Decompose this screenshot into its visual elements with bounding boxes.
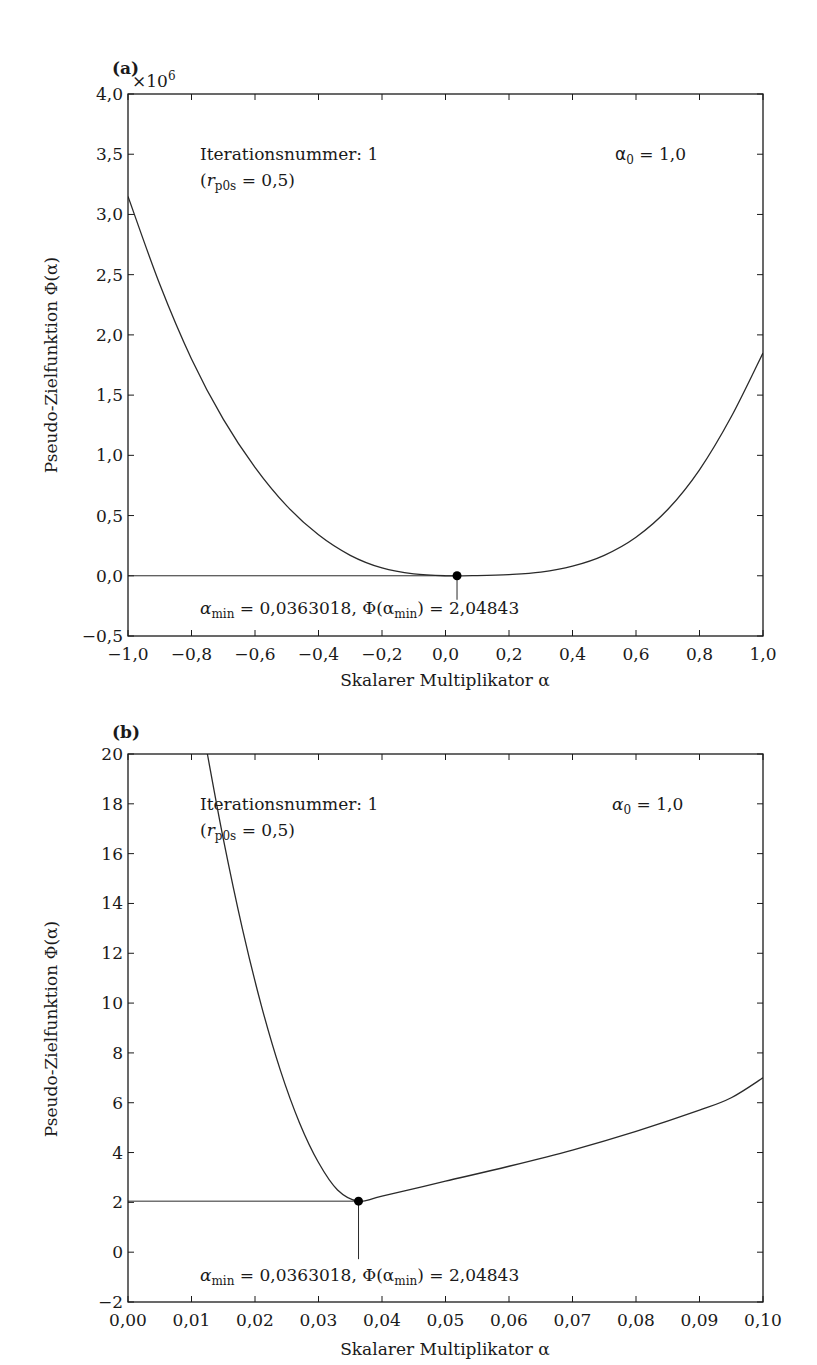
iteration-label-b: Iterationsnummer: 1	[200, 794, 378, 814]
x-tick-label: 0,6	[622, 644, 649, 664]
y-tick-label: −0,5	[82, 626, 123, 646]
y-tick-label: 18	[101, 794, 123, 814]
min-annotation-a: αmin = 0,0363018, Φ(αmin) = 2,04843	[200, 598, 519, 621]
y-tick-label: 6	[112, 1093, 123, 1113]
x-tick-label: −0,4	[298, 644, 339, 664]
x-tick-label: 0,01	[173, 1310, 211, 1330]
x-tick-label: −0,6	[234, 644, 275, 664]
y-tick-label: 8	[112, 1043, 123, 1063]
y-tick-label: 20	[101, 744, 123, 764]
y-axis-ticks-a: −0,50,00,51,01,52,02,53,03,54,0	[82, 84, 763, 646]
x-tick-label: 0,03	[300, 1310, 338, 1330]
x-tick-label: 0,10	[744, 1310, 782, 1330]
min-point-marker	[354, 1197, 363, 1206]
chart-a-svg: (a) ×106 −0,50,00,51,01,52,02,53,03,54,0…	[0, 0, 817, 690]
x-tick-label: 0,08	[617, 1310, 655, 1330]
y-tick-label: 4,0	[96, 84, 123, 104]
alpha0-label-a: α0 = 1,0	[615, 144, 686, 167]
y-tick-label: 3,5	[96, 144, 123, 164]
rp0s-label-a: (rp0s = 0,5)	[200, 170, 295, 193]
x-tick-label: 0,2	[495, 644, 522, 664]
min-annotation-b: αmin = 0,0363018, Φ(αmin) = 2,04843	[200, 1265, 519, 1288]
series-line	[128, 196, 763, 576]
x-tick-label: 0,09	[681, 1310, 719, 1330]
y-tick-label: 0	[112, 1242, 123, 1262]
x-tick-label: −0,2	[361, 644, 402, 664]
plot-frame-a	[128, 94, 763, 636]
y-tick-label: 0,5	[96, 506, 123, 526]
x-tick-label: 0,0	[432, 644, 459, 664]
y-tick-label: 12	[101, 943, 123, 963]
y-axis-label-a: Pseudo-Zielfunktion Φ(α)	[41, 257, 61, 473]
y-multiplier-a: ×106	[132, 69, 176, 91]
x-tick-label: 0,05	[427, 1310, 465, 1330]
y-tick-label: 0,0	[96, 566, 123, 586]
y-axis-ticks-b: −202468101214161820	[98, 744, 763, 1312]
y-tick-label: 14	[101, 893, 123, 913]
panel-tag-b: (b)	[112, 722, 140, 742]
y-tick-label: 2,5	[96, 265, 123, 285]
x-tick-label: −1,0	[107, 644, 148, 664]
y-tick-label: 4	[112, 1143, 123, 1163]
y-tick-label: 2	[112, 1192, 123, 1212]
x-tick-label: 0,04	[363, 1310, 401, 1330]
min-point-marker	[453, 571, 462, 580]
alpha0-label-b: α0 = 1,0	[612, 794, 683, 817]
chart-panel-b: (b) −202468101214161820 0,000,010,020,03…	[0, 690, 817, 1365]
x-axis-label-a: Skalarer Multiplikator α	[340, 670, 550, 690]
x-tick-label: −0,8	[171, 644, 212, 664]
x-tick-label: 0,8	[686, 644, 713, 664]
y-tick-label: 1,0	[96, 445, 123, 465]
y-tick-label: 3,0	[96, 204, 123, 224]
plot-area-a	[128, 196, 763, 599]
x-tick-label: 0,4	[559, 644, 586, 664]
iteration-label-a: Iterationsnummer: 1	[200, 144, 378, 164]
y-tick-label: 16	[101, 844, 123, 864]
x-tick-label: 0,07	[554, 1310, 592, 1330]
chart-panel-a: (a) ×106 −0,50,00,51,01,52,02,53,03,54,0…	[0, 0, 817, 690]
x-tick-label: 0,06	[490, 1310, 528, 1330]
x-axis-ticks-b: 0,000,010,020,030,040,050,060,070,080,09…	[109, 754, 782, 1330]
y-tick-label: −2	[98, 1292, 123, 1312]
y-axis-label-b: Pseudo-Zielfunktion Φ(α)	[41, 921, 61, 1137]
y-tick-label: 2,0	[96, 325, 123, 345]
y-tick-label: 10	[101, 993, 123, 1013]
rp0s-label-b: (rp0s = 0,5)	[200, 820, 295, 843]
x-tick-label: 0,02	[236, 1310, 274, 1330]
x-tick-label: 0,00	[109, 1310, 147, 1330]
x-tick-label: 1,0	[749, 644, 776, 664]
x-axis-label-b: Skalarer Multiplikator α	[340, 1339, 550, 1359]
chart-b-svg: (b) −202468101214161820 0,000,010,020,03…	[0, 690, 817, 1365]
y-tick-label: 1,5	[96, 385, 123, 405]
